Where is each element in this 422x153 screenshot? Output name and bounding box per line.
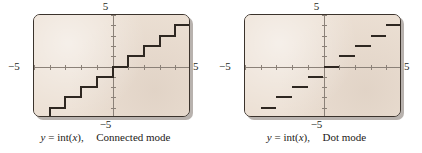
step-segment-connected-8 [160,35,176,37]
panel-dot-mode: 5 −5 5 −5 y = int(x), Dot mode [211,0,422,153]
y-tick-connected-2 [111,46,116,47]
calculator-screen-dot [244,14,401,117]
axis-label-left-connected: −5 [8,61,20,72]
axis-label-right-dot: 5 [404,61,410,72]
connector-segment-connected-5 [127,55,129,67]
x-tick-dot--4 [261,65,262,70]
x-tick-dot--1 [308,65,309,70]
x-tick-connected--2 [81,65,82,70]
connector-segment-connected-0 [49,107,51,117]
caption-equals-dot: = [274,131,280,143]
caption-close-dot: ), [304,131,310,143]
x-tick-connected-4 [175,65,176,70]
x-tick-dot-1 [339,65,340,70]
caption-equals-connected: = [48,131,54,143]
axis-label-right-connected: 5 [193,61,199,72]
axis-label-top-connected: 5 [0,1,211,12]
y-tick-dot--4 [322,108,327,109]
screen-surface-dot [245,15,400,116]
step-segment-dot-5 [324,66,340,68]
step-segment-connected-2 [65,96,81,98]
y-tick-dot-5 [322,15,327,16]
screen-frame-dot [244,14,401,117]
caption-dot: y = int(x), Dot mode [211,131,422,143]
step-segment-dot-8 [371,35,387,37]
panel-connected-mode: 5 −5 5 −5 y = int(x), Connected mode [0,0,211,153]
caption-func-dot: int( [283,131,298,143]
screen-frame-connected [33,14,190,117]
x-tick-connected-3 [160,65,161,70]
step-segment-connected-1 [50,107,66,109]
connector-segment-connected-1 [64,96,66,108]
caption-mode-dot: Dot mode [323,131,367,143]
y-tick-dot-3 [322,36,327,37]
step-segment-connected-7 [144,45,160,47]
step-segment-connected-6 [128,55,144,57]
y-tick-connected--2 [111,87,116,88]
caption-mode-connected: Connected mode [96,131,170,143]
connector-segment-connected-6 [143,45,145,57]
screen-surface-connected [34,15,189,116]
step-segment-connected-4 [97,76,113,78]
x-tick-dot-2 [355,65,356,70]
axis-label-bottom-dot: −5 [211,119,422,130]
y-tick-connected-4 [111,25,116,26]
axis-label-left-dot: −5 [219,61,231,72]
y-tick-dot-1 [322,56,327,57]
axis-label-top-dot: 5 [211,1,422,12]
step-segment-dot-3 [292,86,308,88]
step-segment-connected-5 [113,66,129,68]
caption-close-connected: ), [77,131,83,143]
x-tick-dot--3 [276,65,277,70]
caption-y-var-connected: y [41,131,46,143]
connector-segment-connected-4 [112,66,114,78]
x-tick-dot-4 [386,65,387,70]
x-tick-connected--3 [65,65,66,70]
x-tick-dot--5 [245,65,246,70]
connector-segment-connected-3 [96,76,98,88]
step-segment-dot-9 [386,24,401,26]
caption-func-connected: int( [57,131,72,143]
y-tick-dot-2 [322,46,327,47]
connector-segment-connected-2 [80,86,82,98]
y-tick-dot-4 [322,25,327,26]
y-tick-dot--3 [322,97,327,98]
step-segment-dot-2 [276,96,292,98]
y-tick-connected--3 [111,97,116,98]
x-tick-connected--5 [34,65,35,70]
x-tick-dot-3 [371,65,372,70]
step-segment-connected-3 [81,86,97,88]
calculator-screen-connected [33,14,190,117]
connector-segment-connected-7 [159,35,161,47]
figure-int-x-graphs: 5 −5 5 −5 y = int(x), Connected mode 5 −… [0,0,422,153]
step-segment-dot-1 [261,107,277,109]
axis-label-bottom-connected: −5 [0,119,211,130]
x-tick-connected--1 [97,65,98,70]
y-tick-connected-5 [111,15,116,16]
y-tick-connected--4 [111,108,116,109]
step-segment-connected-9 [175,24,190,26]
x-tick-dot--2 [292,65,293,70]
step-segment-dot-7 [355,45,371,47]
caption-y-var-dot: y [267,131,272,143]
y-tick-connected-1 [111,56,116,57]
x-tick-connected--4 [50,65,51,70]
step-segment-dot-6 [339,55,355,57]
caption-connected: y = int(x), Connected mode [0,131,211,143]
x-axis-dot [245,67,400,68]
connector-segment-connected-8 [174,24,176,36]
y-tick-connected-3 [111,36,116,37]
x-tick-connected-2 [144,65,145,70]
y-tick-dot--2 [322,87,327,88]
step-segment-dot-4 [308,76,324,78]
